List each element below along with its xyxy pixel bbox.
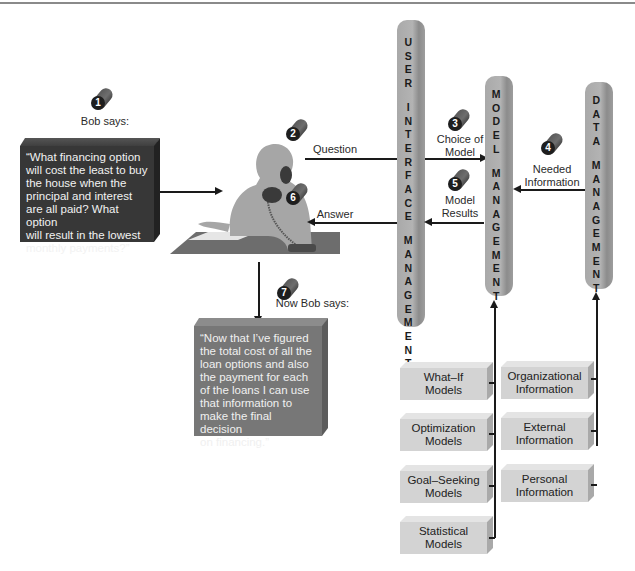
step-badge-4: 4	[540, 132, 570, 156]
model-box-goal-seeking: Goal–SeekingModels	[400, 465, 493, 503]
info-box-external: ExternalInformation	[501, 412, 594, 450]
step-1-label: Bob says:	[70, 115, 140, 128]
quote-line: will cost the least to buy	[26, 164, 148, 177]
model-box-optimization: OptimizationModels	[400, 413, 493, 451]
connector-line	[258, 262, 260, 317]
choice-arrow-line	[425, 158, 483, 160]
quote-line: “Now that I’ve figured	[200, 332, 316, 345]
quote-line: the total cost of all the	[200, 345, 316, 358]
user-interface-management-pillar: USER INTERFACE MANAGEMENT	[397, 20, 425, 327]
step-badge-2: 2	[285, 118, 315, 142]
quote-line: on financing.”	[200, 436, 316, 449]
pillar-word: MODEL	[491, 88, 501, 157]
info-box-personal: PersonalInformation	[501, 464, 594, 502]
model-box-what-if: What–If Models	[400, 362, 493, 400]
model-box-statistical: StatisticalModels	[400, 516, 493, 554]
arrow-up-icon	[490, 300, 498, 308]
step-badge-5: 5	[447, 168, 477, 192]
models-bus-line	[494, 308, 496, 538]
connector-tick	[591, 378, 597, 380]
pillar-word: MANAGEMENT	[591, 159, 601, 296]
needed-info-arrow-line	[521, 189, 585, 191]
step-2-label: Question	[300, 143, 370, 156]
quote-line: principal and interest	[26, 190, 148, 203]
connector-tick	[489, 433, 495, 435]
step-badge-6: 6	[285, 182, 315, 206]
pillar-word: DATA	[591, 94, 601, 149]
step-badge-1: 1	[90, 87, 120, 111]
quote-line: are all paid? What option	[26, 203, 148, 229]
info-box-organizational: OrganizationalInformation	[501, 361, 594, 399]
initial-question-box: “What financing option will cost the lea…	[20, 138, 160, 242]
final-decision-box: “Now that I’ve figured the total cost of…	[194, 318, 328, 436]
arrow-left-icon	[424, 218, 432, 226]
quote-line: will result in the lowest	[26, 229, 148, 242]
quote-line: that information to	[200, 397, 316, 410]
quote-line: “What financing option	[26, 151, 148, 164]
arrow-left-icon	[513, 185, 521, 193]
model-management-pillar: MODEL MANAGEMENT	[485, 76, 513, 296]
step-badge-3: 3	[447, 108, 477, 132]
connector-tick	[489, 485, 495, 487]
pillar-word: USER	[403, 36, 413, 91]
quote-line: make the final decision	[200, 410, 316, 436]
connector-tick	[489, 382, 495, 384]
step-5-label: ModelResults	[430, 194, 490, 220]
arrow-left-icon	[307, 218, 315, 226]
quote-line: monthly payments?”	[26, 242, 148, 255]
pillar-word: MANAGEMENT	[491, 167, 501, 304]
quote-line: the house when the	[26, 177, 148, 190]
step-4-label: NeededInformation	[520, 163, 584, 189]
answer-arrow-line	[315, 222, 400, 224]
connector-tick	[591, 430, 597, 432]
quote-line: of the loans I can use	[200, 384, 316, 397]
quote-line: the payment for each	[200, 371, 316, 384]
pillar-word: INTERFACE	[403, 101, 413, 224]
pillar-word: MANAGEMENT	[403, 234, 413, 371]
top-rule	[0, 2, 635, 4]
quote-line: loan options and also	[200, 358, 316, 371]
info-bus-line	[596, 300, 598, 446]
arrow-up-icon	[592, 292, 600, 300]
connector-tick	[489, 537, 495, 539]
connector-tick	[591, 484, 597, 486]
step-7-label: Now Bob says:	[265, 297, 360, 310]
results-arrow-line	[432, 222, 484, 224]
question-arrow-line	[305, 158, 397, 160]
data-management-pillar: DATA MANAGEMENT	[585, 82, 613, 289]
